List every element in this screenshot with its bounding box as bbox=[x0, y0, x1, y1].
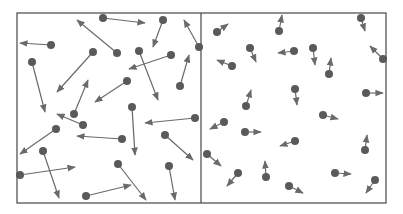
molecule-dot-icon bbox=[242, 102, 250, 110]
molecule-dot-icon bbox=[362, 89, 370, 97]
molecule-dot-icon bbox=[99, 14, 107, 22]
molecule-dot-icon bbox=[291, 137, 299, 145]
molecule-dot-icon bbox=[275, 27, 283, 35]
molecule-dot-icon bbox=[79, 121, 87, 129]
molecule-dot-icon bbox=[159, 16, 167, 24]
molecule-dot-icon bbox=[203, 150, 211, 158]
molecule-dot-icon bbox=[220, 118, 228, 126]
molecule-dot-icon bbox=[70, 110, 78, 118]
molecule-dot-icon bbox=[291, 85, 299, 93]
molecule-dot-icon bbox=[234, 169, 242, 177]
gas-particles-diagram bbox=[0, 0, 403, 214]
molecule-dot-icon bbox=[191, 114, 199, 122]
molecule-dot-icon bbox=[262, 173, 270, 181]
molecule-dot-icon bbox=[82, 192, 90, 200]
molecule-dot-icon bbox=[128, 103, 136, 111]
molecule-dot-icon bbox=[167, 51, 175, 59]
molecule-dot-icon bbox=[195, 43, 203, 51]
molecule-dot-icon bbox=[357, 14, 365, 22]
molecule-dot-icon bbox=[165, 162, 173, 170]
molecule-dot-icon bbox=[228, 62, 236, 70]
molecule-dot-icon bbox=[371, 176, 379, 184]
molecule-dot-icon bbox=[52, 125, 60, 133]
molecule-dot-icon bbox=[114, 160, 122, 168]
molecule-dot-icon bbox=[39, 147, 47, 155]
molecule-dot-icon bbox=[89, 48, 97, 56]
molecule-dot-icon bbox=[28, 58, 36, 66]
molecule-dot-icon bbox=[319, 111, 327, 119]
molecule-dot-icon bbox=[241, 128, 249, 136]
molecule-dot-icon bbox=[290, 47, 298, 55]
molecule-dot-icon bbox=[213, 28, 221, 36]
molecule-dot-icon bbox=[309, 44, 317, 52]
molecule-dot-icon bbox=[361, 146, 369, 154]
molecule-dot-icon bbox=[118, 135, 126, 143]
molecule-dot-icon bbox=[176, 82, 184, 90]
molecule-dot-icon bbox=[123, 77, 131, 85]
molecule-dot-icon bbox=[285, 182, 293, 190]
diagram-canvas bbox=[0, 0, 403, 214]
molecule-dot-icon bbox=[113, 49, 121, 57]
molecule-dot-icon bbox=[161, 131, 169, 139]
molecule-dot-icon bbox=[325, 70, 333, 78]
molecule-dot-icon bbox=[47, 41, 55, 49]
molecule-dot-icon bbox=[331, 169, 339, 177]
molecule-dot-icon bbox=[135, 47, 143, 55]
molecule-dot-icon bbox=[246, 44, 254, 52]
